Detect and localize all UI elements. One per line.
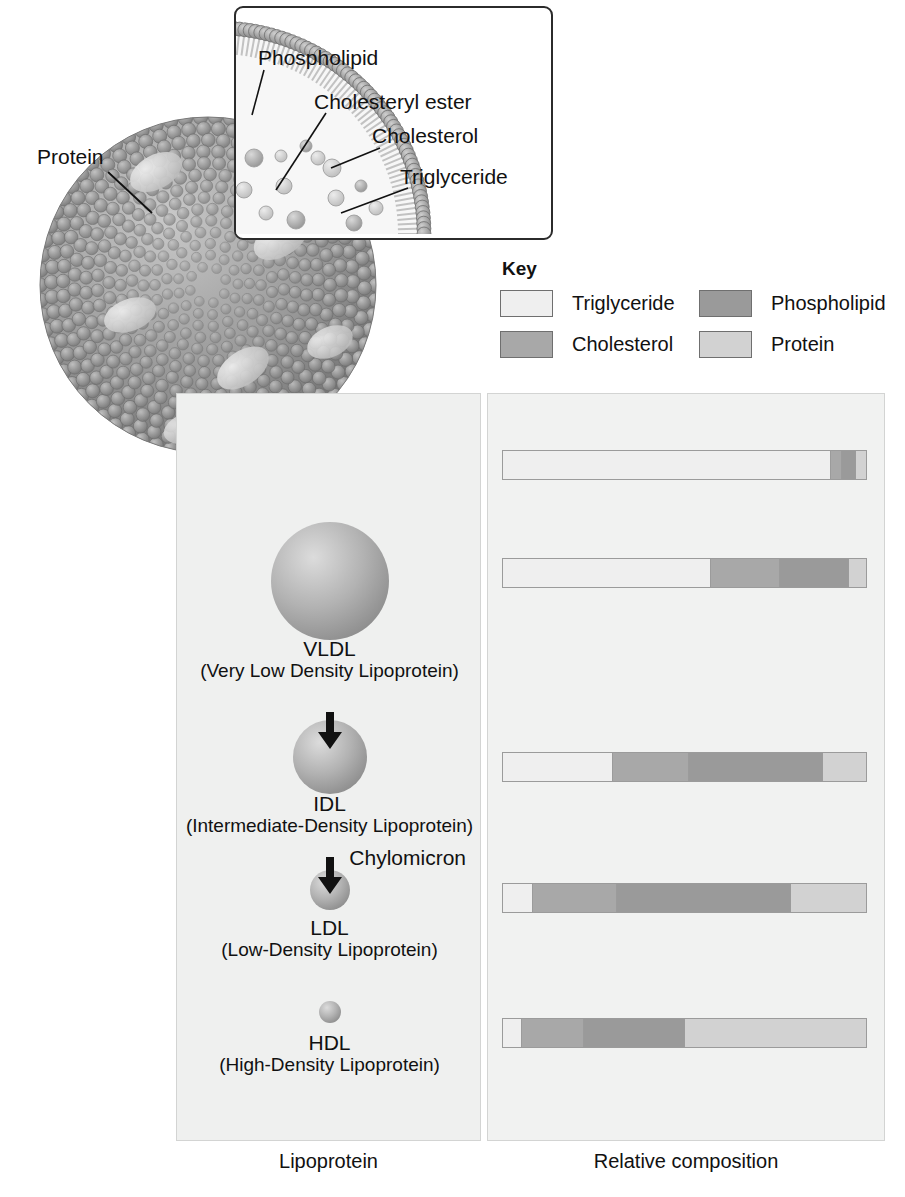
lipoprotein-name-vldl: VLDL: [177, 637, 482, 661]
label-triglyceride: Triglyceride: [400, 165, 508, 189]
diagram-canvas: Protein: [0, 0, 905, 1197]
composition-panel: [487, 393, 885, 1141]
bar-segment-phospholipid: [841, 451, 856, 479]
bar-segment-protein: [848, 559, 866, 587]
composition-bar-vldl: [502, 558, 867, 588]
lipoprotein-row: [177, 1001, 482, 1023]
bar-segment-cholesterol: [830, 451, 841, 479]
legend-key: Key Triglyceride Phospholipid Cholestero…: [500, 258, 898, 358]
membrane-cutaway-panel: Phospholipid Cholesteryl ester Cholester…: [234, 6, 553, 240]
bar-segment-protein: [684, 1019, 866, 1047]
lipoprotein-name-hdl: HDL: [177, 1031, 482, 1055]
composition-bar-ldl: [502, 883, 867, 913]
bar-segment-triglyceride: [503, 559, 710, 587]
key-label-phospholipid: Phospholipid: [761, 292, 898, 315]
bar-segment-phospholipid: [616, 884, 790, 912]
lipoprotein-name-ldl: LDL: [177, 916, 482, 940]
bar-segment-triglyceride: [503, 884, 532, 912]
bar-segment-cholesterol: [612, 753, 688, 781]
bar-segment-cholesterol: [532, 884, 615, 912]
lipoprotein-name-idl: IDL: [177, 792, 482, 816]
bar-segment-phospholipid: [779, 559, 848, 587]
lipoprotein-panel: Chylomicron VLDL(Very Low Density Lipopr…: [176, 393, 481, 1141]
bar-segment-phospholipid: [583, 1019, 685, 1047]
bar-segment-phospholipid: [688, 753, 822, 781]
composition-bar-hdl: [502, 1018, 867, 1048]
composition-bar-idl: [502, 752, 867, 782]
bar-segment-protein: [855, 451, 866, 479]
flow-arrow-down-icon: [177, 857, 482, 895]
lipoprotein-sphere-hdl: [319, 1001, 341, 1023]
key-swatch-protein: [699, 331, 752, 358]
key-label-triglyceride: Triglyceride: [562, 292, 699, 315]
bar-segment-triglyceride: [503, 1019, 521, 1047]
bar-segment-triglyceride: [503, 753, 612, 781]
lipoprotein-fullname-hdl: (High-Density Lipoprotein): [177, 1054, 482, 1076]
lipoprotein-fullname-vldl: (Very Low Density Lipoprotein): [177, 660, 482, 682]
key-label-protein: Protein: [761, 333, 898, 356]
key-label-cholesterol: Cholesterol: [562, 333, 699, 356]
label-cholesteryl-ester: Cholesteryl ester: [314, 90, 472, 114]
label-phospholipid: Phospholipid: [258, 46, 378, 70]
caption-relative-composition: Relative composition: [487, 1150, 885, 1173]
bar-segment-protein: [790, 884, 866, 912]
key-swatch-phospholipid: [699, 290, 752, 317]
bar-segment-triglyceride: [503, 451, 830, 479]
key-title: Key: [502, 258, 898, 280]
bar-segment-cholesterol: [710, 559, 779, 587]
protein-callout-label: Protein: [37, 145, 104, 169]
key-swatch-cholesterol: [500, 331, 553, 358]
caption-lipoprotein: Lipoprotein: [176, 1150, 481, 1173]
membrane-cutaway-svg: [236, 8, 547, 234]
lipoprotein-fullname-idl: (Intermediate-Density Lipoprotein): [177, 815, 482, 837]
key-swatch-triglyceride: [500, 290, 553, 317]
lipoprotein-sphere-vldl: [271, 522, 389, 640]
lipoprotein-fullname-ldl: (Low-Density Lipoprotein): [177, 939, 482, 961]
lipoprotein-row: [177, 522, 482, 640]
flow-arrow-down-icon: [177, 712, 482, 750]
bar-segment-cholesterol: [521, 1019, 583, 1047]
composition-bar-chylomicron: [502, 450, 867, 480]
label-cholesterol: Cholesterol: [372, 124, 478, 148]
bar-segment-protein: [822, 753, 866, 781]
